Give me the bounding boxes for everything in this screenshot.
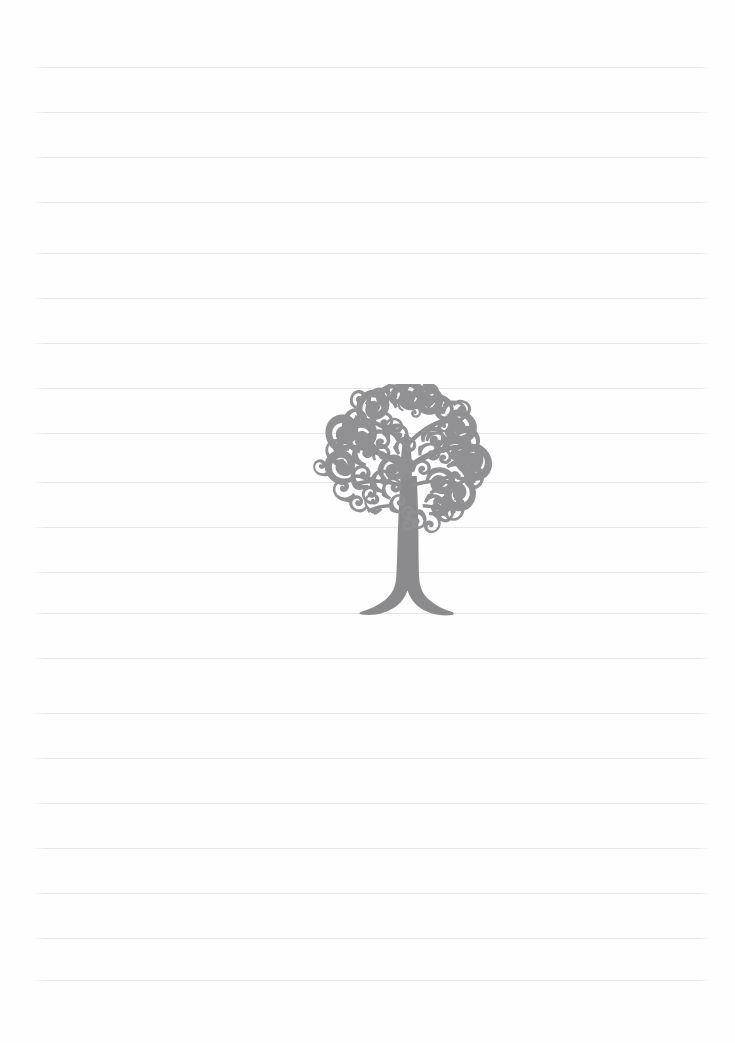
- rule-line: [32, 803, 710, 804]
- rule-line: [32, 298, 710, 299]
- rule-line: [32, 343, 710, 344]
- rule-line: [32, 253, 710, 254]
- ornamental-tree-icon: [312, 384, 504, 624]
- rule-line: [32, 893, 710, 894]
- rule-line: [32, 980, 710, 981]
- rule-line: [32, 658, 710, 659]
- rule-line: [32, 157, 710, 158]
- rule-line: [32, 758, 710, 759]
- rule-line: [32, 112, 710, 113]
- rule-line: [32, 938, 710, 939]
- notebook-page: [0, 0, 735, 1043]
- rule-line: [32, 202, 710, 203]
- rule-line: [32, 848, 710, 849]
- rule-line: [32, 67, 710, 68]
- rule-line: [32, 713, 710, 714]
